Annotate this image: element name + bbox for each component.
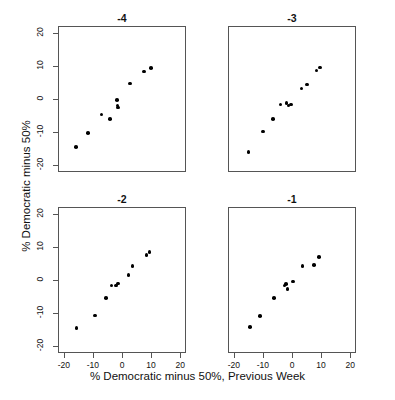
data-point — [318, 66, 322, 70]
x-axis-tick — [292, 353, 293, 358]
data-point — [104, 296, 108, 300]
y-axis-tick-label: -20 — [35, 335, 45, 355]
data-point — [289, 103, 293, 107]
data-point — [110, 284, 114, 288]
data-point — [315, 69, 319, 73]
y-axis-tick-label: 0 — [35, 269, 45, 289]
x-axis-tick — [93, 353, 94, 358]
panel-title: -4 — [58, 12, 186, 24]
panel-bottom-right: -1 -20-1001020 — [228, 207, 356, 353]
data-point — [131, 264, 135, 268]
data-points-layer — [58, 26, 186, 172]
scatter-plot-matrix-figure: % Democratic minus 50% % Democratic minu… — [0, 0, 395, 400]
y-axis-tick-label: -10 — [35, 121, 45, 141]
y-axis-tick-label: 10 — [35, 236, 45, 256]
y-axis-tick-label: 20 — [35, 22, 45, 42]
data-point — [272, 296, 276, 300]
y-axis-tick — [53, 346, 58, 347]
y-axis-tick — [53, 66, 58, 67]
x-axis-tick-label: 0 — [109, 360, 135, 370]
data-points-layer — [228, 26, 356, 172]
data-points-layer — [58, 207, 186, 353]
data-point — [312, 263, 316, 267]
data-point — [300, 87, 304, 91]
data-point — [86, 131, 90, 135]
panel-top-left: -4 -20-1001020 — [58, 26, 186, 172]
y-axis-title: % Democratic minus 50% — [20, 76, 32, 296]
data-point — [75, 326, 79, 330]
data-point — [148, 250, 152, 254]
data-point — [127, 273, 131, 277]
data-point — [247, 150, 251, 154]
x-axis-title: % Democratic minus 50%, Previous Week — [0, 370, 395, 382]
y-axis-tick-label: -10 — [35, 302, 45, 322]
panel-bottom-left: -2 -20-1001020-20-1001020 — [58, 207, 186, 353]
y-axis-tick-label: 20 — [35, 203, 45, 223]
data-point — [301, 264, 305, 268]
x-axis-tick-label: -20 — [51, 360, 77, 370]
x-axis-tick — [64, 353, 65, 358]
y-axis-tick — [53, 313, 58, 314]
data-point — [115, 98, 119, 102]
y-axis-tick — [53, 214, 58, 215]
y-axis-tick-label: 10 — [35, 55, 45, 75]
data-point — [284, 282, 288, 286]
data-point — [291, 280, 295, 284]
panel-top-right: -3 — [228, 26, 356, 172]
x-axis-tick — [321, 353, 322, 358]
x-axis-tick-label: 20 — [167, 360, 193, 370]
data-point — [116, 282, 120, 286]
data-point — [128, 82, 132, 86]
x-axis-tick-label: -10 — [80, 360, 106, 370]
data-point — [279, 103, 283, 107]
data-points-layer — [228, 207, 356, 353]
data-point — [93, 314, 97, 318]
x-axis-tick — [234, 353, 235, 358]
data-point — [100, 113, 104, 117]
y-axis-tick — [53, 33, 58, 34]
y-axis-tick — [53, 132, 58, 133]
data-point — [149, 66, 153, 70]
data-point — [258, 314, 262, 318]
panel-title: -3 — [228, 12, 356, 24]
data-point — [116, 106, 120, 110]
x-axis-tick-label: 0 — [279, 360, 305, 370]
x-axis-tick — [180, 353, 181, 358]
data-point — [108, 117, 112, 121]
x-axis-tick-label: -10 — [250, 360, 276, 370]
data-point — [286, 287, 290, 291]
x-axis-tick-label: 10 — [308, 360, 334, 370]
data-point — [261, 130, 265, 134]
panel-title: -2 — [58, 193, 186, 205]
x-axis-tick — [122, 353, 123, 358]
data-point — [305, 83, 309, 87]
x-axis-tick — [151, 353, 152, 358]
data-point — [248, 325, 252, 329]
data-point — [74, 145, 78, 149]
y-axis-tick — [53, 99, 58, 100]
x-axis-tick-label: 10 — [138, 360, 164, 370]
data-point — [271, 117, 275, 121]
y-axis-tick-label: 0 — [35, 88, 45, 108]
y-axis-tick — [53, 165, 58, 166]
y-axis-tick — [53, 280, 58, 281]
x-axis-tick-label: -20 — [221, 360, 247, 370]
x-axis-tick-label: 20 — [337, 360, 363, 370]
x-axis-tick — [350, 353, 351, 358]
data-point — [317, 255, 321, 259]
x-axis-tick — [263, 353, 264, 358]
data-point — [142, 70, 146, 74]
y-axis-tick-label: -20 — [35, 154, 45, 174]
y-axis-tick — [53, 247, 58, 248]
panel-title: -1 — [228, 193, 356, 205]
